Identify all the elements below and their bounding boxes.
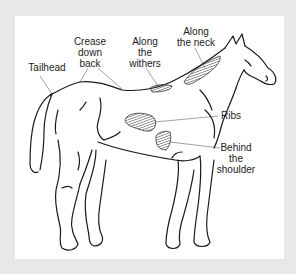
label-text: the neck (172, 37, 220, 48)
condition-areas (125, 56, 220, 150)
label-along-the-withers: Along the withers (124, 36, 166, 69)
patch-neck-icon (184, 56, 220, 84)
label-text: down (70, 47, 110, 58)
label-text: Tailhead (24, 62, 70, 73)
label-text: the (124, 47, 166, 58)
patch-ribs-icon (125, 113, 155, 131)
patch-withers-icon (150, 85, 172, 92)
label-text: Ribs (218, 110, 244, 121)
label-text: Behind (214, 142, 258, 153)
leader-tailhead (40, 76, 52, 94)
label-text: Crease (70, 36, 110, 47)
label-text: Along (124, 36, 166, 47)
label-text: back (70, 58, 110, 69)
label-text: shoulder (214, 164, 258, 175)
label-text: Along (172, 26, 220, 37)
label-ribs: Ribs (218, 110, 244, 121)
leader-withers (146, 68, 158, 86)
leader-crease-1 (80, 68, 88, 82)
patch-shoulder-icon (156, 131, 171, 150)
label-behind-the-shoulder: Behind the shoulder (214, 142, 258, 175)
label-tailhead: Tailhead (24, 62, 70, 73)
label-text: the (214, 153, 258, 164)
leader-shoulder (170, 142, 220, 148)
label-along-the-neck: Along the neck (172, 26, 220, 48)
leader-ribs (155, 116, 218, 122)
label-crease-down-back: Crease down back (70, 36, 110, 69)
label-text: withers (124, 58, 166, 69)
